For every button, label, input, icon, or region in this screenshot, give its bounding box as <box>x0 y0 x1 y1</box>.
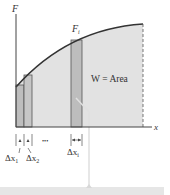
delta-x-i-label: Δxi <box>67 147 79 158</box>
work-area-diagram: F x Fi W = Area ••• Δx1 Δx2 Δxi <box>0 0 170 195</box>
bottom-bar <box>0 187 164 195</box>
fi-label: Fi <box>71 23 80 35</box>
x-axis-label: x <box>153 122 158 132</box>
delta-x-2-label: Δx2 <box>26 153 39 164</box>
area-label: W = Area <box>91 74 129 84</box>
ellipsis: ••• <box>42 138 48 144</box>
y-axis-label: F <box>11 3 19 14</box>
pointer-tip <box>86 184 92 188</box>
bar-2 <box>24 75 32 127</box>
bar-1 <box>16 85 24 127</box>
delta-x-1-label: Δx1 <box>5 153 18 164</box>
bar-i <box>71 40 82 127</box>
